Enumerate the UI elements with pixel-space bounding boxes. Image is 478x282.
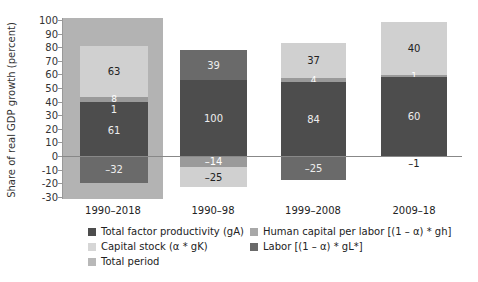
legend-item-labor: Labor [(1 – α) * gL*]: [250, 241, 363, 252]
y-tickmark: [58, 88, 62, 89]
y-tickmark: [58, 115, 62, 116]
y-tickmark: [58, 61, 62, 62]
legend-swatch: [88, 228, 96, 236]
legend-item-human-capital: Human capital per labor [(1 – α) * gh]: [250, 226, 451, 237]
legend-label: Labor [(1 – α) * gL*]: [263, 241, 363, 252]
y-tick: 100: [28, 15, 58, 26]
y-tick: 40: [28, 96, 58, 107]
bar-segment-labor: –25: [281, 156, 346, 180]
y-tick: 90: [28, 28, 58, 39]
y-tick: 80: [28, 42, 58, 53]
bar-segment-labor-negative: –32: [80, 156, 148, 183]
bar-segment-labor: 39: [180, 50, 247, 80]
y-tick: 50: [28, 83, 58, 94]
legend-label: Total factor productivity (gA): [101, 226, 244, 237]
y-axis-title: Share of real GDP growth (percent): [4, 20, 18, 200]
legend-swatch: [250, 243, 258, 251]
legend-label: Capital stock (α * gK): [101, 241, 208, 252]
bar-segment-labor: –1: [381, 157, 447, 169]
bar-segment-tfp: 60: [381, 77, 447, 156]
y-tick: -30: [28, 191, 58, 202]
y-tickmark: [58, 47, 62, 48]
x-category: 2009–18: [364, 205, 464, 216]
y-tickmark: [58, 142, 62, 143]
y-tickmark: [58, 183, 62, 184]
y-axis-title-text: Share of real GDP growth (percent): [6, 22, 17, 198]
bar-segment-capital-stock: 37: [281, 43, 346, 78]
y-tickmark: [58, 129, 62, 130]
bar-segment-capital-stock: –25: [180, 167, 247, 187]
bar-segment-capital-stock: 40: [381, 22, 447, 75]
y-tickmark: [58, 102, 62, 103]
y-tickmark: [58, 170, 62, 171]
y-tick: -20: [28, 178, 58, 189]
y-tick: 20: [28, 123, 58, 134]
legend-item-total-period: Total period: [88, 256, 159, 267]
y-tickmark: [58, 34, 62, 35]
label-labor: 1: [111, 104, 117, 115]
y-tick: 10: [28, 137, 58, 148]
y-tick: 70: [28, 55, 58, 66]
x-category: 1990–2018: [63, 205, 163, 216]
x-category: 1990–98: [163, 205, 263, 216]
legend-swatch: [88, 258, 96, 266]
bar-segment-tfp: 1 61: [80, 102, 148, 156]
label-tfp: 61: [108, 125, 121, 136]
legend-item-capital-stock: Capital stock (α * gK): [88, 241, 208, 252]
bar-segment-tfp: 84: [281, 82, 346, 156]
legend-item-tfp: Total factor productivity (gA): [88, 226, 244, 237]
bar-segment-capital-stock: 63: [80, 46, 148, 97]
legend-swatch: [88, 243, 96, 251]
y-tickmark: [58, 74, 62, 75]
y-tick: 30: [28, 110, 58, 121]
y-tickmark: [58, 197, 62, 198]
x-category: 1999–2008: [263, 205, 363, 216]
legend-label: Human capital per labor [(1 – α) * gh]: [263, 226, 451, 237]
zero-line: [62, 156, 462, 157]
bar-segment-human-capital: –14: [180, 156, 247, 167]
y-tickmark: [58, 20, 62, 21]
y-tick: 0: [28, 151, 58, 162]
bar-segment-tfp: 100: [180, 80, 247, 156]
y-tick: 60: [28, 69, 58, 80]
y-tick: -10: [28, 164, 58, 175]
legend-label: Total period: [101, 256, 159, 267]
legend-swatch: [250, 228, 258, 236]
